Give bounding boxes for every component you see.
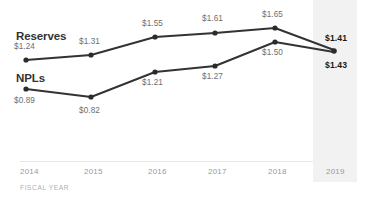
data-label-npls-2017: $1.27 — [202, 72, 223, 81]
series-label-npls: NPLs — [16, 72, 45, 84]
data-label-reserves-2017: $1.61 — [202, 14, 223, 23]
x-tick-2014: 2014 — [20, 167, 39, 176]
line-chart: Reserves NPLs $1.24 $1.31 $1.55 $1.61 $1… — [0, 0, 372, 203]
x-tick-2017: 2017 — [208, 167, 227, 176]
series-line-npls — [26, 42, 334, 97]
x-tick-2018: 2018 — [268, 167, 287, 176]
x-tick-2015: 2015 — [84, 167, 103, 176]
series-markers-npls — [23, 39, 277, 99]
data-label-reserves-2016: $1.55 — [142, 19, 163, 28]
data-label-reserves-2018: $1.65 — [262, 10, 283, 19]
data-label-npls-2019: $1.43 — [325, 60, 347, 70]
x-axis-caption: FISCAL YEAR — [20, 184, 69, 191]
data-label-reserves-2019: $1.41 — [325, 33, 347, 43]
x-tick-2019: 2019 — [326, 167, 345, 176]
series-label-reserves: Reserves — [16, 30, 66, 42]
data-label-npls-2015: $0.82 — [79, 106, 100, 115]
data-label-reserves-2015: $1.31 — [79, 37, 100, 46]
data-label-npls-2018: $1.50 — [262, 48, 283, 57]
data-label-reserves-2014: $1.24 — [14, 42, 35, 51]
x-axis-line — [20, 161, 313, 162]
series-marker-convergence-2019 — [331, 48, 337, 54]
x-tick-2016: 2016 — [148, 167, 167, 176]
data-label-npls-2014: $0.89 — [14, 96, 35, 105]
data-label-npls-2016: $1.21 — [142, 78, 163, 87]
